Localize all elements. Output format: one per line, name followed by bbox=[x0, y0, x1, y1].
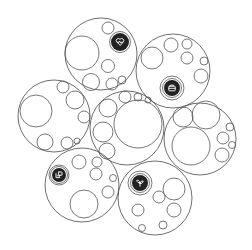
child-circle bbox=[57, 81, 69, 93]
child-circle bbox=[92, 157, 102, 167]
child-circle bbox=[110, 175, 117, 182]
child-circle bbox=[114, 100, 162, 148]
cluster-left bbox=[18, 80, 90, 152]
child-circle bbox=[132, 204, 144, 216]
child-circle bbox=[90, 168, 102, 180]
child-circle bbox=[153, 191, 165, 203]
child-circle bbox=[229, 142, 236, 149]
child-circle bbox=[159, 221, 167, 229]
child-circle bbox=[141, 47, 163, 69]
child-circle bbox=[65, 36, 99, 70]
child-circle bbox=[102, 60, 115, 73]
child-circle bbox=[70, 190, 98, 218]
child-circle bbox=[217, 132, 229, 144]
child-circle bbox=[164, 38, 178, 52]
child-circle bbox=[20, 95, 52, 127]
child-circle bbox=[119, 91, 131, 103]
child-circle bbox=[78, 111, 90, 123]
child-circle bbox=[72, 155, 86, 169]
child-circle bbox=[167, 203, 181, 217]
child-circle bbox=[74, 138, 80, 144]
child-circle bbox=[37, 134, 53, 150]
diagram-canvas bbox=[0, 0, 252, 250]
child-circle bbox=[99, 99, 117, 117]
child-circle bbox=[226, 123, 234, 131]
child-circle bbox=[181, 52, 193, 64]
child-circle bbox=[66, 91, 84, 109]
cluster-outer-circles bbox=[18, 18, 236, 235]
child-circle bbox=[61, 137, 73, 149]
cluster-child-circles bbox=[20, 22, 236, 232]
child-circle bbox=[102, 186, 114, 198]
child-circle bbox=[192, 101, 220, 129]
child-circle bbox=[83, 74, 100, 91]
child-circle bbox=[172, 127, 210, 165]
child-circle bbox=[173, 107, 193, 127]
child-circle bbox=[102, 22, 114, 34]
child-circle bbox=[194, 69, 208, 83]
child-circle bbox=[139, 225, 146, 232]
cluster-right bbox=[164, 103, 236, 175]
child-circle bbox=[215, 148, 229, 162]
child-circle bbox=[163, 178, 185, 200]
circle-packing-diagram bbox=[0, 0, 252, 250]
child-circle bbox=[93, 122, 113, 142]
child-circle bbox=[200, 57, 208, 65]
child-circle bbox=[99, 143, 115, 159]
child-circle bbox=[182, 39, 192, 49]
